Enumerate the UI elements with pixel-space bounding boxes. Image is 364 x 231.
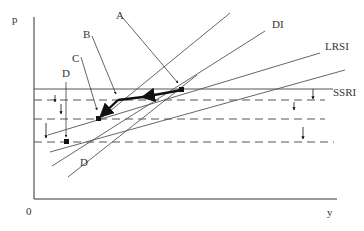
- ssri-lines: [34, 89, 334, 142]
- point-c-label: C: [72, 52, 79, 64]
- d-curve-label: D: [80, 156, 88, 168]
- di-label: DI: [272, 18, 284, 30]
- adjustment-path: [64, 87, 184, 144]
- origin-label: 0: [26, 205, 32, 217]
- point-a-label: A: [116, 9, 124, 21]
- adjustment-diagram: p 0 y A B C D DI LRSI SSRI D: [0, 0, 364, 231]
- y-axis-label: p: [12, 13, 18, 25]
- lrsi-label: LRSI: [325, 40, 349, 52]
- ssri-label: SSRI: [333, 86, 357, 98]
- point-b-label: B: [83, 28, 90, 40]
- shift-arrows: [46, 89, 313, 139]
- point-d-label: D: [62, 67, 70, 79]
- point-d-marker: [64, 139, 69, 144]
- axes: [34, 17, 337, 199]
- point-a-marker: [179, 87, 184, 92]
- point-c-marker: [96, 116, 101, 121]
- x-axis-label: y: [327, 206, 333, 218]
